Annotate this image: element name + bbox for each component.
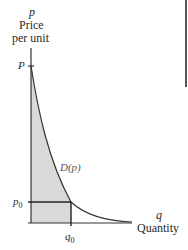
- p-tick-label: P: [18, 60, 25, 71]
- x-axis-label: Quantity: [137, 222, 179, 234]
- curve-label: D(p): [60, 162, 81, 173]
- p0-subscript: 0: [19, 201, 23, 210]
- edge-divider: [185, 0, 187, 87]
- p0-tick-label: p0: [13, 196, 23, 210]
- consumer-surplus-region: [31, 66, 71, 223]
- q0-tick-label: q0: [65, 231, 75, 245]
- y-axis-label-line1: Price: [19, 19, 44, 31]
- x-axis-symbol: q: [156, 209, 162, 221]
- y-axis-symbol: p: [29, 6, 35, 18]
- q0-subscript: 0: [71, 236, 75, 245]
- y-axis-label-line2: per unit: [12, 32, 49, 44]
